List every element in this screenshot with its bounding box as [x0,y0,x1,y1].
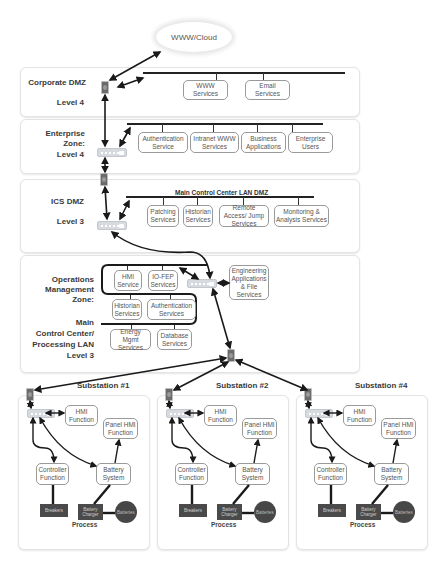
bus-drop [292,124,293,132]
firewall-icon [100,173,108,186]
bus-drop [162,124,163,132]
service-www: WWW Services [183,80,228,100]
batteries: Batteries [393,501,415,523]
main-cc-3: Processing LAN [22,340,94,350]
ics-dmz-bus [126,196,314,198]
enterprise-bus [127,123,323,125]
ics-dmz-title: ICS DMZ [28,197,84,207]
bus-drop [163,197,164,205]
service-hmi: HMI Service [114,270,142,291]
service-io-fep: IO-FEP Services [148,270,178,291]
firewall-icon [26,388,34,401]
service-authentication: Authentication Service [138,132,188,153]
main-cc-1: Main [22,318,94,328]
substation-2-title: Substation #2 [216,381,268,390]
network-switch-icon [27,409,55,418]
operations-title-1: Operations [22,275,94,285]
bus-drop [216,73,217,80]
network-switch-icon [166,409,194,418]
cloud-label: WWW/Cloud [171,33,217,42]
battery-system: Battery System [235,463,270,485]
bus-drop [197,197,198,205]
panel-hmi-function: Panel HMI Function [103,418,138,439]
network-switch-icon [305,409,333,418]
battery-charger: Battery Charger [356,504,381,520]
hmi-function: HMI Function [204,405,237,426]
service-energy-mgmt: Energy Mgmt Services [110,329,151,350]
service-historian: Historian Services [112,299,142,320]
process-label: Process [72,521,97,528]
breakers: Breakers [40,504,68,517]
substation-4-title: Substation #4 [355,381,407,390]
bus-drop [257,124,258,132]
bus-drop [213,124,214,132]
firewall-icon [304,388,312,401]
service-patching: Patching Services [147,205,179,227]
battery-charger: Battery Charger [78,504,103,520]
battery-system: Battery System [96,463,131,485]
bus-drop [263,73,264,80]
enterprise-title: Enterprise Zone: [22,129,85,149]
network-switch-icon [97,221,127,230]
service-enterprise-users: Enterprise Users [288,132,333,153]
ics-dmz-bus-label: Main Control Center LAN DMZ [175,189,268,196]
process-label: Process [211,521,236,528]
controller-function: Controller Function [36,463,69,485]
battery-charger: Battery Charger [217,504,242,520]
service-monitoring: Monitoring & Analysis Services [274,205,329,227]
hmi-function: HMI Function [65,405,98,426]
service-intranet-www: Intranet WWW Services [190,132,239,153]
controller-function: Controller Function [175,463,208,485]
panel-hmi-function: Panel HMI Function [381,418,416,439]
firewall-icon [101,81,109,94]
operations-level: Level 3 [22,351,94,361]
corporate-dmz-title: Corporate DMZ [28,78,86,88]
network-switch-icon [97,148,127,157]
substation-1-title: Substation #1 [77,381,129,390]
batteries: Batteries [254,501,276,523]
service-business-apps: Business Applications [241,132,286,153]
www-cloud: WWW/Cloud [156,22,232,52]
service-email: Email Services [245,80,290,100]
operations-title-2: Management Zone: [22,285,94,305]
batteries: Batteries [115,501,137,523]
hmi-function: HMI Function [343,405,376,426]
breakers: Breakers [179,504,207,517]
service-remote-access: Remote Access/ Jump Services [219,205,269,227]
ics-dmz-level: Level 3 [28,217,84,227]
process-label: Process [350,521,375,528]
battery-system: Battery System [374,463,409,485]
service-authentication-ops: Authentication Services [147,299,196,320]
network-switch-icon [187,279,217,288]
enterprise-level: Level 4 [28,150,84,160]
firewall-icon [227,349,235,362]
firewall-icon [165,388,173,401]
main-cc-2: Control Center/ [22,329,94,339]
breakers: Breakers [318,504,346,517]
panel-hmi-function: Panel HMI Function [242,418,277,439]
bus-drop [298,197,299,205]
service-engineering: Engineering Applications & File Services [229,265,269,300]
service-historian-dmz: Historian Services [183,205,213,227]
corporate-dmz-level: Level 4 [28,98,84,108]
controller-function: Controller Function [314,463,347,485]
service-database: Database Services [157,329,192,350]
corporate-dmz-bus [143,72,345,74]
